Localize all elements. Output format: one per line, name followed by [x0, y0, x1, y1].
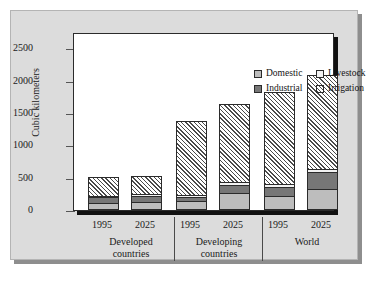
x-group-label: World — [259, 236, 355, 248]
y-tick-label: 500 — [0, 172, 33, 183]
x-group-label-line2: countries — [171, 248, 267, 260]
y-tick-label: 1500 — [0, 107, 33, 118]
plot-area: Domestic Livestock Industrial Irrigation — [73, 33, 334, 211]
chart-legend: Domestic Livestock Industrial Irrigation — [254, 66, 365, 96]
legend-label-livestock: Livestock — [328, 66, 365, 81]
legend-item-irrigation[interactable]: Irrigation — [316, 81, 364, 96]
bar-segment-irrigation — [265, 93, 294, 186]
bar-stack — [176, 121, 207, 210]
y-tick-mark — [66, 211, 75, 212]
domestic-swatch-icon — [254, 70, 262, 78]
x-group-divider — [174, 217, 175, 261]
legend-label-industrial: Industrial — [266, 81, 302, 96]
x-group-label-line1: World — [259, 236, 355, 248]
legend-label-domestic: Domestic — [266, 66, 302, 81]
x-group-label-line2: countries — [83, 248, 179, 260]
x-group-divider — [262, 217, 263, 261]
x-tick-label: 2025 — [211, 219, 255, 230]
livestock-swatch-icon — [316, 70, 324, 78]
legend-row-1: Domestic Livestock — [254, 66, 365, 81]
bar-segment-domestic — [308, 190, 337, 209]
bar-segment-irrigation — [220, 105, 249, 183]
bar-segment-domestic — [220, 194, 249, 209]
bar-segment-irrigation — [89, 178, 118, 197]
legend-label-irrigation: Irrigation — [328, 81, 364, 96]
y-tick-label: 2500 — [0, 42, 33, 53]
legend-item-domestic[interactable]: Domestic — [254, 66, 316, 81]
x-group-label-line1: Developed — [83, 236, 179, 248]
bar-segment-industrial — [265, 188, 294, 198]
legend-item-livestock[interactable]: Livestock — [316, 66, 365, 81]
irrigation-swatch-icon — [316, 85, 324, 93]
legend-row-2: Industrial Irrigation — [254, 81, 365, 96]
bar-segment-irrigation — [132, 177, 161, 196]
x-tick-label: 2025 — [123, 219, 167, 230]
y-tick-label: 1000 — [0, 139, 33, 150]
bar-segment-domestic — [265, 197, 294, 209]
x-group-label: Developingcountries — [171, 236, 267, 260]
bar-segment-domestic — [177, 202, 206, 209]
bar-segment-industrial — [220, 186, 249, 194]
x-group-label-line1: Developing — [171, 236, 267, 248]
bar-stack — [264, 92, 295, 210]
bar-stack — [219, 104, 250, 210]
y-tick-label: 0 — [0, 204, 33, 215]
figure-panel: Cubic kilometers 05001000150020002500 Do… — [10, 10, 358, 260]
x-group-label: Developedcountries — [83, 236, 179, 260]
bar-segment-irrigation — [177, 122, 206, 196]
x-tick-label: 1995 — [80, 219, 124, 230]
bar-segment-domestic — [132, 203, 161, 209]
bar-stack — [88, 177, 119, 210]
y-tick-label: 2000 — [0, 75, 33, 86]
x-tick-label: 2025 — [299, 219, 343, 230]
legend-item-industrial[interactable]: Industrial — [254, 81, 316, 96]
industrial-swatch-icon — [254, 85, 262, 93]
bar-stack — [131, 176, 162, 210]
bar-segment-domestic — [89, 204, 118, 209]
figure-container: Cubic kilometers 05001000150020002500 Do… — [0, 0, 376, 281]
bar-segment-industrial — [308, 173, 337, 189]
